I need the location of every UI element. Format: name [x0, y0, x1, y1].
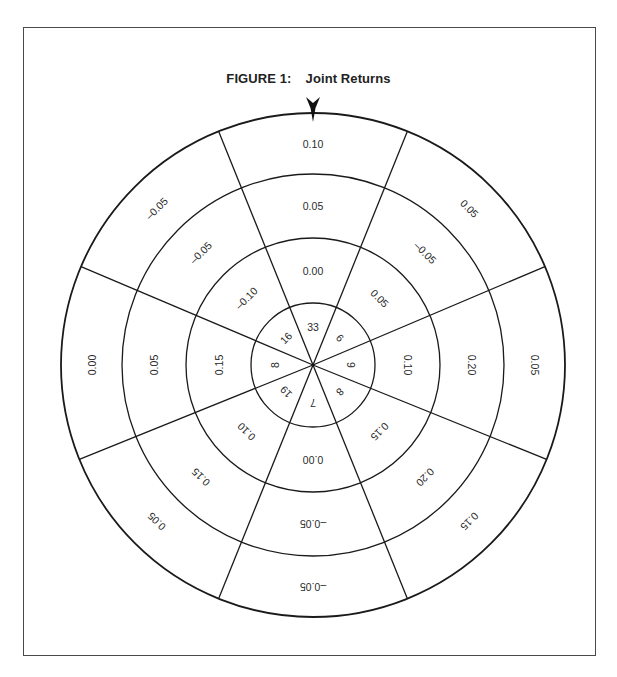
- sector-45-outer-value: 0.05: [458, 197, 481, 220]
- sector-315-count-label: 16: [277, 329, 294, 346]
- sector-270-ring2-value: 0.15: [213, 355, 225, 376]
- sector-boundary-7: [79, 365, 313, 459]
- sector-boundary-4: [313, 365, 547, 459]
- sector-boundary-2: [313, 131, 407, 365]
- sector-boundary-3: [313, 267, 545, 365]
- sector-90-ring3-value: 0.20: [466, 355, 478, 376]
- sector-180-ring3-value: –0.05: [300, 518, 326, 530]
- sector-225-ring2-value: 0.10: [235, 420, 258, 443]
- sector-270-outer-value: 0.00: [86, 355, 98, 376]
- sector-135-ring3-value: 0.20: [414, 466, 437, 489]
- sector-45-count-label: 6: [334, 331, 347, 344]
- sector-180-count-label: 7: [310, 397, 316, 409]
- sector-180-outer-value: –0.05: [300, 581, 326, 593]
- sector-boundary-8: [81, 267, 313, 365]
- sector-0-ring3-value: 0.05: [303, 200, 324, 212]
- sector-135-count-label: 8: [334, 386, 347, 399]
- sector-225-outer-value: 0.05: [145, 510, 168, 533]
- sector-270-count-label: 8: [269, 362, 281, 368]
- sector-270-ring3-value: 0.05: [148, 355, 160, 376]
- sector-315-outer-value: –0.05: [143, 195, 170, 222]
- sector-0-count-label: 33: [307, 321, 319, 333]
- sector-180-ring2-value: 0.00: [303, 454, 324, 466]
- sector-315-ring2-value: –0.10: [233, 285, 260, 312]
- sector-boundary-1: [219, 131, 313, 365]
- sector-135-outer-value: 0.15: [458, 510, 481, 533]
- sector-135-ring2-value: 0.15: [368, 420, 391, 443]
- sector-315-ring3-value: –0.05: [187, 239, 214, 266]
- sector-90-count-label: 9: [345, 362, 357, 368]
- sector-0-ring2-value: 0.00: [303, 265, 324, 277]
- sector-225-ring3-value: 0.15: [189, 466, 212, 489]
- sector-0-outer-value: 0.10: [303, 138, 324, 150]
- sector-45-ring3-value: –0.05: [412, 239, 439, 266]
- arrow-down-marker-icon: [306, 97, 320, 122]
- sector-90-outer-value: 0.05: [529, 355, 541, 376]
- sector-boundary-5: [313, 365, 407, 599]
- sector-225-count-label: 19: [277, 384, 294, 401]
- joint-returns-polar-diagram: 330.000.050.1060.05–0.050.0590.100.200.0…: [0, 0, 617, 677]
- sector-90-ring2-value: 0.10: [402, 355, 414, 376]
- sector-boundary-6: [219, 365, 313, 599]
- sector-45-ring2-value: 0.05: [368, 287, 391, 310]
